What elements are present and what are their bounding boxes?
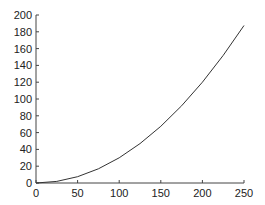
x-tick-label: 0 [33,187,39,199]
x-tick-label: 250 [235,187,253,199]
x-tick-label: 150 [152,187,170,199]
y-tick-label: 180 [14,26,32,38]
y-tick-label: 120 [14,76,32,88]
x-tick-label: 200 [193,187,211,199]
series-line [36,26,244,184]
line-chart: 020406080100120140160180200 050100150200… [0,0,265,205]
y-tick-label: 0 [26,177,32,189]
y-axis: 020406080100120140160180200 [14,9,39,189]
y-tick-label: 140 [14,59,32,71]
y-tick-label: 60 [20,127,32,139]
y-tick-label: 200 [14,9,32,21]
y-tick-label: 20 [20,160,32,172]
series [36,26,244,184]
x-axis: 050100150200250 [33,180,253,199]
y-tick-label: 80 [20,110,32,122]
x-tick-label: 50 [71,187,83,199]
x-tick-label: 100 [110,187,128,199]
y-tick-label: 40 [20,143,32,155]
y-tick-label: 160 [14,43,32,55]
y-tick-label: 100 [14,93,32,105]
